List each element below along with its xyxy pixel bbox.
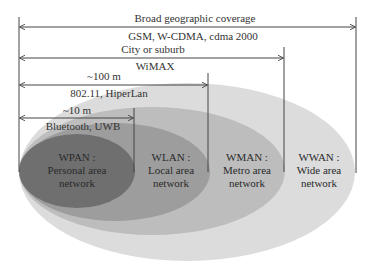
wman-name: WMAN : bbox=[226, 151, 268, 163]
wlan-desc-line1: Local area bbox=[148, 164, 194, 176]
wlan-tech-label: 802.11, HiperLan bbox=[70, 87, 148, 99]
wlan-name: WLAN : bbox=[152, 151, 191, 163]
wwan-range-label: Broad geographic coverage bbox=[135, 12, 256, 24]
wwan-tech-label: GSM, W-CDMA, cdma 2000 bbox=[128, 30, 258, 42]
wlan-desc-line2: network bbox=[153, 177, 190, 189]
wpan-tech-label: Bluetooth, UWB bbox=[46, 120, 121, 132]
wpan-desc-line2: network bbox=[59, 177, 96, 189]
wman-desc-line1: Metro area bbox=[223, 164, 271, 176]
wman-tech-label: WiMAX bbox=[136, 60, 175, 72]
wlan-range-label: ~100 m bbox=[87, 70, 121, 82]
network-coverage-diagram: Broad geographic coverage GSM, W-CDMA, c… bbox=[0, 0, 374, 270]
wpan-name: WPAN : bbox=[58, 151, 95, 163]
wpan-range-label: ~10 m bbox=[63, 104, 92, 116]
wwan-name: WWAN : bbox=[298, 151, 339, 163]
wwan-desc-line1: Wide area bbox=[297, 164, 342, 176]
wman-desc-line2: network bbox=[229, 177, 266, 189]
wwan-desc-line2: network bbox=[301, 177, 338, 189]
wman-range-label: City or suburb bbox=[121, 43, 185, 55]
wpan-desc-line1: Personal area bbox=[48, 164, 107, 176]
